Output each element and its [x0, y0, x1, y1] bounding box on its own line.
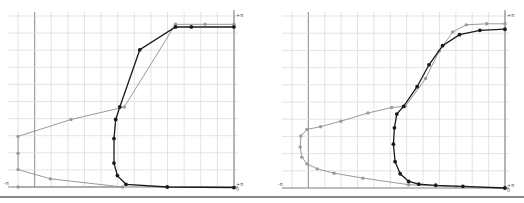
data-point-marker: [458, 33, 462, 37]
data-point-marker: [393, 126, 397, 130]
data-point-marker: [402, 105, 406, 109]
data-point-marker: [395, 112, 399, 116]
chart-panel-right: +π+π0-π: [262, 0, 524, 195]
data-point-marker: [69, 118, 72, 121]
data-point-marker: [165, 185, 169, 189]
data-point-marker: [124, 182, 128, 186]
data-point-marker: [305, 162, 308, 165]
chart-right-plot: +π+π0-π: [262, 0, 524, 195]
data-point-marker: [319, 125, 322, 128]
series-black: [392, 27, 507, 190]
data-point-marker: [485, 22, 488, 25]
series-grey: [16, 23, 235, 189]
data-point-marker: [392, 142, 396, 146]
data-point-marker: [417, 182, 421, 186]
data-point-marker: [305, 128, 308, 131]
data-point-marker: [503, 27, 507, 31]
y-min-label: 0: [507, 187, 510, 193]
data-point-marker: [16, 152, 19, 155]
data-point-marker: [390, 106, 393, 109]
data-point-marker: [298, 145, 301, 148]
data-point-marker: [116, 174, 120, 178]
data-point-marker: [434, 183, 438, 187]
data-point-marker: [332, 172, 335, 175]
data-point-marker: [16, 185, 19, 188]
data-point-marker: [299, 134, 302, 137]
data-point-marker: [478, 28, 482, 32]
bottom-divider: [0, 196, 524, 198]
data-point-marker: [49, 177, 52, 180]
data-point-marker: [16, 135, 19, 138]
y-min-label: 0: [236, 186, 239, 192]
y-max-label: +π: [507, 12, 514, 18]
data-point-marker: [203, 23, 206, 26]
data-point-marker: [465, 23, 468, 26]
data-point-marker: [415, 85, 419, 89]
chart-panel-left: +π+π0-π: [0, 0, 262, 195]
data-point-marker: [174, 25, 178, 29]
data-point-marker: [121, 185, 124, 188]
data-point-marker: [339, 120, 342, 123]
data-point-marker: [441, 44, 445, 48]
x-min-label: -π: [278, 181, 283, 187]
data-point-marker: [232, 25, 236, 29]
y-max-label: +π: [236, 12, 243, 18]
data-point-marker: [315, 167, 318, 170]
x-min-label: -π: [4, 180, 9, 186]
data-point-marker: [427, 63, 431, 67]
data-point-marker: [138, 48, 142, 52]
data-point-marker: [451, 30, 454, 33]
data-point-marker: [424, 77, 427, 80]
data-point-marker: [114, 118, 118, 122]
data-point-marker: [16, 168, 19, 171]
data-point-marker: [398, 172, 402, 176]
data-point-marker: [366, 111, 369, 114]
data-point-marker: [232, 186, 236, 190]
data-point-marker: [189, 25, 193, 29]
data-point-marker: [112, 137, 116, 141]
data-point-marker: [407, 180, 411, 184]
data-point-marker: [503, 22, 506, 25]
data-point-marker: [118, 105, 122, 109]
data-point-marker: [361, 176, 364, 179]
data-point-marker: [407, 183, 410, 186]
data-point-marker: [123, 105, 126, 108]
data-point-marker: [503, 186, 507, 190]
data-point-marker: [393, 160, 397, 164]
data-point-marker: [300, 156, 303, 159]
data-point-marker: [112, 161, 116, 165]
chart-left-plot: +π+π0-π: [0, 0, 262, 195]
data-point-marker: [461, 184, 465, 188]
